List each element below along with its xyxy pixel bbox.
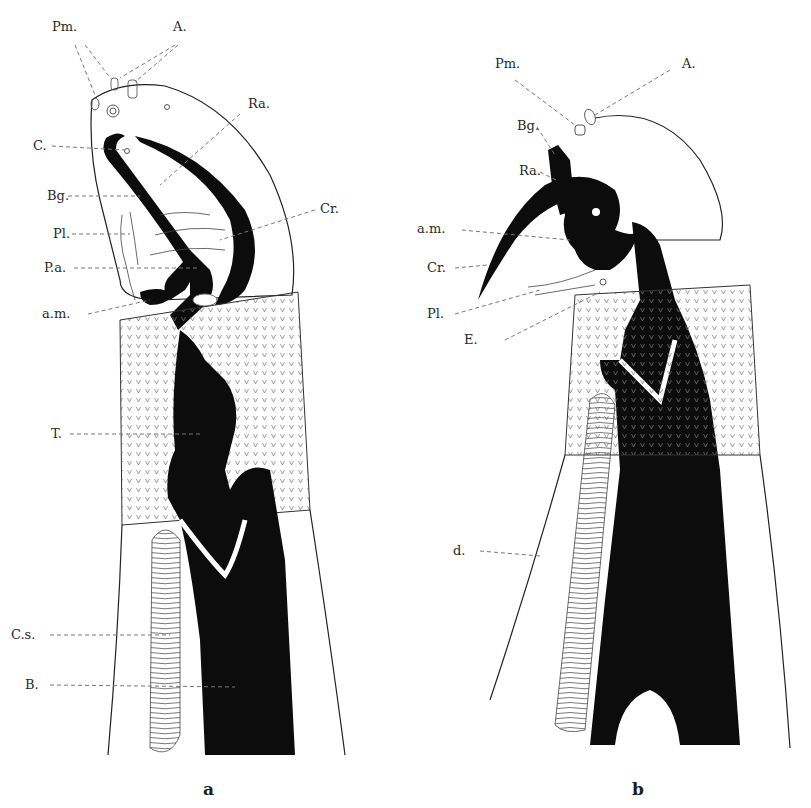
label-pm-b: Pm. — [495, 56, 520, 71]
label-pm-a: Pm. — [52, 19, 77, 34]
caption-a: a — [203, 779, 214, 799]
caption-b: b — [632, 779, 644, 799]
label-d-b: d. — [453, 543, 465, 558]
label-bg-a: Bg. — [47, 188, 69, 203]
ringed-tube-a — [150, 530, 180, 752]
panel-b-drawing — [455, 70, 790, 748]
label-cs-a: C.s. — [11, 627, 35, 642]
label-pl-a: Pl. — [53, 226, 70, 241]
label-pl-b: Pl. — [427, 306, 444, 321]
label-t-a: T. — [51, 426, 62, 441]
label-b-a: B. — [25, 677, 39, 692]
figure-plate: Pm. A. Ra. C. Bg. Cr. Pl. P.a. a.m. T. C… — [0, 0, 811, 808]
label-cr-a: Cr. — [320, 201, 339, 216]
label-a-b: A. — [681, 56, 696, 71]
label-bg-b: Bg. — [517, 118, 539, 133]
label-am-b: a.m. — [417, 221, 445, 236]
label-am-a: a.m. — [42, 306, 70, 321]
panel-a-drawing — [50, 45, 345, 755]
label-pa-a: P.a. — [44, 260, 66, 275]
label-ra-b: Ra. — [519, 163, 541, 178]
label-e-b: E. — [464, 332, 478, 347]
label-ra-a: Ra. — [248, 96, 270, 111]
label-a-a: A. — [172, 19, 187, 34]
label-c-a: C. — [33, 138, 47, 153]
label-cr-b: Cr. — [427, 260, 446, 275]
